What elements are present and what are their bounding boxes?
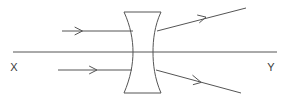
refracted-ray-upper	[157, 8, 246, 31]
ray-diagram-canvas: X Y	[0, 0, 291, 102]
refracted-ray-lower	[156, 70, 241, 93]
axis-label-right: Y	[267, 61, 275, 73]
optics-ray-diagram: X Y	[0, 0, 291, 102]
axis-label-left: X	[10, 61, 18, 73]
